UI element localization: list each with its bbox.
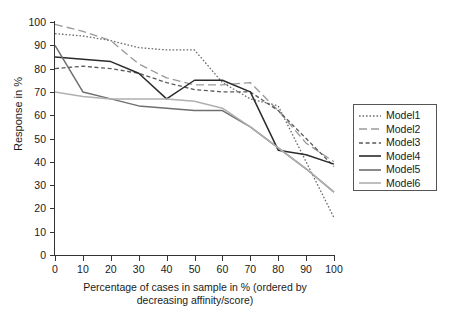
legend-swatch-model1 bbox=[358, 111, 382, 121]
x-tick-mark bbox=[195, 256, 196, 261]
legend-swatch-model6 bbox=[358, 178, 382, 188]
x-tick-label: 80 bbox=[263, 264, 293, 275]
x-tick-mark bbox=[55, 256, 56, 261]
y-tick-label: 100 bbox=[16, 17, 46, 27]
series-lines bbox=[55, 22, 334, 255]
series-line-model1 bbox=[55, 34, 334, 218]
x-tick-mark bbox=[167, 256, 168, 261]
x-tick-mark bbox=[111, 256, 112, 261]
legend-item-model3[interactable]: Model3 bbox=[358, 136, 436, 150]
line-chart-figure: 0102030405060708090100 01020304050607080… bbox=[0, 0, 458, 319]
legend-label: Model5 bbox=[382, 164, 420, 175]
legend-label: Model1 bbox=[382, 110, 420, 121]
x-tick-mark bbox=[222, 256, 223, 261]
x-tick-label: 90 bbox=[291, 264, 321, 275]
chart-legend: Model1Model2Model3Model4Model5Model6 bbox=[353, 104, 437, 191]
x-tick-label: 100 bbox=[319, 264, 349, 275]
x-tick-mark bbox=[306, 256, 307, 261]
legend-item-model1[interactable]: Model1 bbox=[358, 109, 436, 123]
legend-item-model4[interactable]: Model4 bbox=[358, 150, 436, 164]
x-axis-label: Percentage of cases in sample in % (orde… bbox=[40, 281, 350, 307]
x-tick-label: 20 bbox=[96, 264, 126, 275]
x-tick-mark bbox=[334, 256, 335, 261]
x-tick-label: 50 bbox=[180, 264, 210, 275]
legend-swatch-model2 bbox=[358, 124, 382, 134]
series-line-model2 bbox=[55, 24, 334, 161]
x-tick-mark bbox=[139, 256, 140, 261]
x-tick-mark bbox=[83, 256, 84, 261]
series-line-model6 bbox=[55, 92, 334, 192]
y-tick-label: 10 bbox=[16, 227, 46, 237]
y-tick-label: 0 bbox=[16, 250, 46, 260]
legend-item-model2[interactable]: Model2 bbox=[358, 123, 436, 137]
legend-label: Model3 bbox=[382, 137, 420, 148]
legend-swatch-model3 bbox=[358, 138, 382, 148]
x-tick-mark bbox=[278, 256, 279, 261]
legend-swatch-model5 bbox=[358, 165, 382, 175]
x-axis-label-line2: decreasing affinity/score) bbox=[137, 294, 254, 306]
y-axis-label: Response in % bbox=[12, 44, 24, 184]
legend-label: Model2 bbox=[382, 124, 420, 135]
legend-label: Model4 bbox=[382, 151, 420, 162]
x-tick-label: 30 bbox=[124, 264, 154, 275]
legend-item-model5[interactable]: Model5 bbox=[358, 163, 436, 177]
y-tick-label: 20 bbox=[16, 203, 46, 213]
x-tick-label: 10 bbox=[68, 264, 98, 275]
x-tick-mark bbox=[250, 256, 251, 261]
legend-swatch-model4 bbox=[358, 151, 382, 161]
legend-label: Model6 bbox=[382, 178, 420, 189]
x-tick-label: 40 bbox=[152, 264, 182, 275]
x-tick-label: 70 bbox=[235, 264, 265, 275]
x-tick-label: 60 bbox=[207, 264, 237, 275]
plot-area bbox=[55, 22, 334, 255]
x-axis-label-line1: Percentage of cases in sample in % (orde… bbox=[83, 281, 307, 293]
x-tick-label: 0 bbox=[40, 264, 70, 275]
series-line-model3 bbox=[55, 66, 334, 166]
legend-item-model6[interactable]: Model6 bbox=[358, 177, 436, 191]
